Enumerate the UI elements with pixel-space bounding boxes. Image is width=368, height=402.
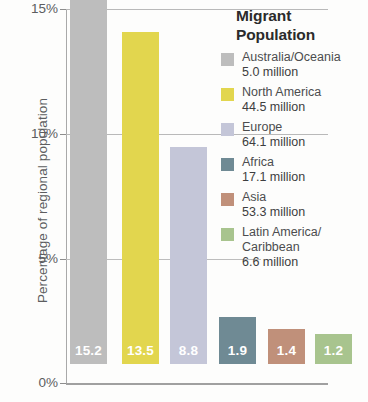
legend-swatch-europe	[221, 123, 234, 136]
legend-item-asia: Asia 53.3 million	[221, 190, 368, 220]
legend-swatch-latin-america-caribbean	[221, 228, 234, 241]
legend-label-north-america: North America	[242, 85, 368, 100]
legend-value-north-america: 44.5 million	[242, 100, 368, 115]
x-axis-baseline	[66, 383, 328, 385]
axis-tick-0	[60, 383, 66, 384]
legend-item-europe: Europe 64.1 million	[221, 120, 368, 150]
legend-items: Australia/Oceania 5.0 million North Amer…	[221, 50, 368, 270]
bar-value-europe: 8.8	[170, 343, 207, 358]
legend-title-line1: Migrant	[236, 7, 291, 24]
bar-value-australia-oceania: 15.2	[70, 343, 107, 358]
axis-tick-5	[60, 259, 66, 260]
y-tick-label-5: 5%	[4, 251, 58, 266]
legend-value-latin-america-caribbean: 6.6 million	[242, 255, 368, 270]
y-axis-spine	[66, 9, 67, 383]
legend-label2-latin-america-caribbean: Caribbean	[242, 240, 368, 255]
legend-label-europe: Europe	[242, 120, 368, 135]
bar-asia: 1.4	[268, 329, 305, 364]
legend-title-line2: Population	[236, 26, 315, 43]
y-tick-label-10: 10%	[4, 126, 58, 141]
y-axis-title: Percentage of regional population	[35, 71, 50, 331]
legend: Migrant Population Australia/Oceania 5.0…	[221, 6, 368, 275]
bar-value-africa: 1.9	[219, 343, 256, 358]
legend-item-north-america: North America 44.5 million	[221, 85, 368, 115]
legend-item-latin-america-caribbean: Latin America/ Caribbean 6.6 million	[221, 225, 368, 270]
legend-label-australia-oceania: Australia/Oceania	[242, 50, 368, 65]
bar-value-latin-america-caribbean: 1.2	[315, 343, 352, 358]
bar-africa: 1.9	[219, 317, 256, 364]
legend-item-australia-oceania: Australia/Oceania 5.0 million	[221, 50, 368, 80]
legend-value-asia: 53.3 million	[242, 205, 368, 220]
migrant-population-bar-chart: Percentage of regional population 15% 10…	[0, 0, 368, 402]
legend-value-europe: 64.1 million	[242, 135, 368, 150]
legend-value-africa: 17.1 million	[242, 170, 368, 185]
y-tick-label-0: 0%	[4, 375, 58, 390]
legend-label-africa: Africa	[242, 155, 368, 170]
y-tick-label-15: 15%	[4, 1, 58, 16]
bar-latin-america-caribbean: 1.2	[315, 334, 352, 364]
legend-item-africa: Africa 17.1 million	[221, 155, 368, 185]
axis-tick-15	[60, 9, 66, 10]
bar-europe: 8.8	[170, 147, 207, 364]
legend-title: Migrant Population	[236, 6, 368, 44]
legend-swatch-africa	[221, 158, 234, 171]
legend-label-asia: Asia	[242, 190, 368, 205]
bar-australia-oceania: 15.2	[70, 0, 107, 364]
legend-value-australia-oceania: 5.0 million	[242, 65, 368, 80]
axis-tick-10	[60, 134, 66, 135]
bar-value-asia: 1.4	[268, 343, 305, 358]
legend-swatch-north-america	[221, 88, 234, 101]
legend-swatch-australia-oceania	[221, 53, 234, 66]
bar-value-north-america: 13.5	[122, 343, 159, 358]
legend-swatch-asia	[221, 193, 234, 206]
bar-north-america: 13.5	[122, 32, 159, 364]
legend-label-latin-america-caribbean: Latin America/	[242, 225, 368, 240]
